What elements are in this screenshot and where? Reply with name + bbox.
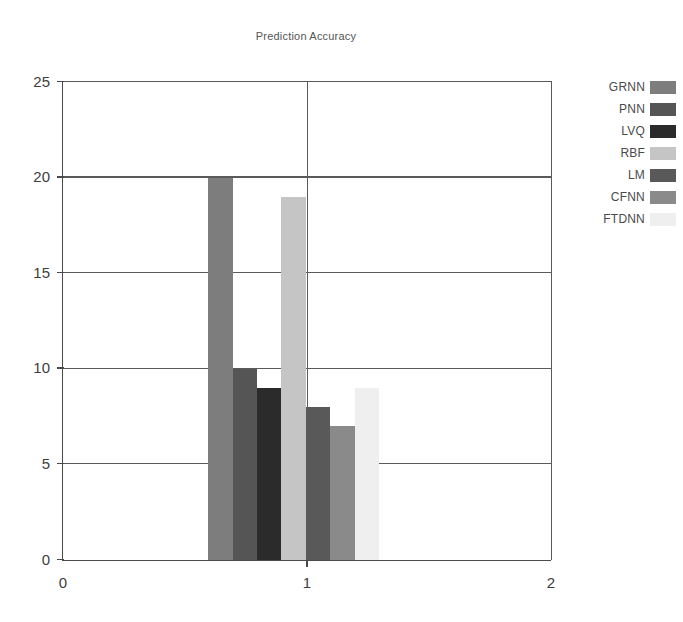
x-axis-tick [306, 560, 307, 567]
legend-color-swatch [650, 191, 676, 204]
x-axis-tick-label: 2 [547, 574, 555, 591]
legend-item-pnn: PNN [572, 98, 676, 120]
legend-item-label: LVQ [621, 124, 645, 138]
legend-item-label: PNN [619, 102, 645, 116]
legend-color-swatch [650, 213, 676, 226]
legend-item-label: GRNN [609, 80, 645, 94]
bar-rbf [281, 197, 305, 560]
y-axis-tick: 25 [57, 81, 64, 82]
y-axis-tick-label: 25 [33, 72, 50, 89]
bar-ftdnn [355, 388, 379, 560]
legend-item-grnn: GRNN [572, 76, 676, 98]
legend-item-rbf: RBF [572, 142, 676, 164]
y-axis-tick-label: 0 [42, 550, 50, 567]
bar-pnn [233, 369, 257, 560]
legend-color-swatch [650, 103, 676, 116]
x-axis-tick-label: 1 [303, 574, 311, 591]
chart-title: Prediction Accuracy [62, 30, 550, 42]
plot-area: 0510152025 012 [62, 82, 551, 561]
legend-color-swatch [650, 169, 676, 182]
y-axis-tick: 5 [57, 463, 64, 464]
legend-item-label: RBF [620, 146, 645, 160]
y-axis-tick: 15 [57, 272, 64, 273]
y-axis-tick: 20 [57, 176, 64, 177]
plot-frame-right [551, 81, 552, 560]
legend-item-lvq: LVQ [572, 120, 676, 142]
y-axis-tick-label: 10 [33, 359, 50, 376]
legend-item-label: CFNN [611, 190, 645, 204]
legend-color-swatch [650, 147, 676, 160]
legend-item-lm: LM [572, 164, 676, 186]
legend-color-swatch [650, 81, 676, 94]
legend-item-label: FTDNN [603, 212, 645, 226]
legend-color-swatch [650, 125, 676, 138]
bar-cfnn [330, 426, 354, 560]
x-axis-tick-label: 0 [59, 574, 67, 591]
y-axis-tick-label: 20 [33, 168, 50, 185]
y-axis-tick: 0 [57, 559, 64, 560]
bar-lm [306, 407, 330, 560]
legend-item-label: LM [628, 168, 645, 182]
chart-legend: GRNNPNNLVQRBFLMCFNNFTDNN [572, 76, 676, 230]
y-axis-tick-label: 15 [33, 263, 50, 280]
legend-item-cfnn: CFNN [572, 186, 676, 208]
legend-item-ftdnn: FTDNN [572, 208, 676, 230]
bar-grnn [208, 178, 232, 560]
chart-figure: Prediction Accuracy 0510152025 012 GRNNP… [0, 0, 683, 622]
y-axis-tick-label: 5 [42, 455, 50, 472]
bar-lvq [257, 388, 281, 560]
y-axis-tick: 10 [57, 367, 64, 368]
